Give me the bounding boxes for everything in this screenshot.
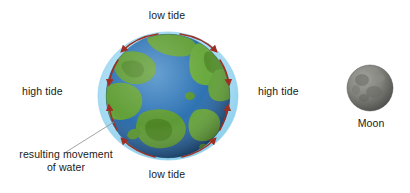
label-moon: Moon [348,117,394,130]
moon-sphere [347,65,393,111]
label-resulting-movement-of-water: resulting movement of water [8,148,124,173]
movement-note-line2: of water [47,161,85,173]
tides-diagram: low tide low tide high tide high tide re… [0,0,410,193]
movement-note-line1: resulting movement [19,148,112,160]
label-low-tide-top: low tide [0,9,334,22]
label-high-tide-right: high tide [258,85,299,98]
label-high-tide-left: high tide [22,85,63,98]
